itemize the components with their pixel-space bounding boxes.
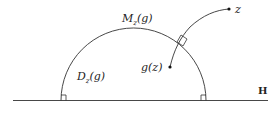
point-label: z (235, 4, 241, 15)
image-point-label: g(z) (141, 62, 162, 73)
geodesic-semicircle (61, 28, 206, 101)
diagram: Mz(g) Dz(g) g(z) z H (0, 0, 276, 115)
region-label: Dz(g) (77, 71, 105, 85)
right-angle-marker-right (201, 95, 206, 101)
space-label: H (258, 86, 267, 96)
right-angle-marker-left (61, 95, 66, 101)
geodesic-label: Mz(g) (122, 13, 153, 27)
point-z (227, 7, 230, 10)
point-gz (168, 65, 171, 68)
